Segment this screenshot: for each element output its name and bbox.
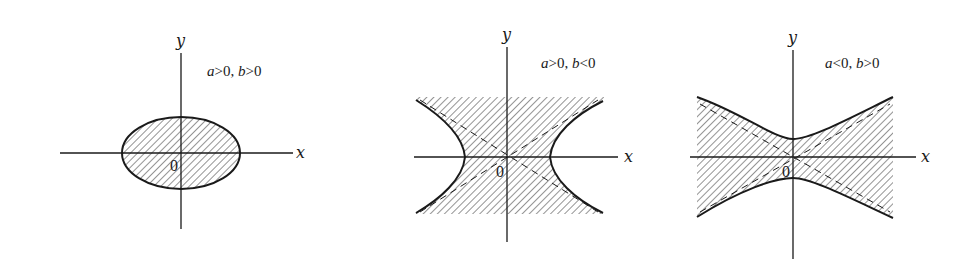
cond-b: >0 <box>863 55 879 71</box>
conic-sections-figure: x y 0 a>0, b>0 x y 0 a>0, b<0 x y <box>0 0 979 275</box>
cond-b: >0 <box>245 63 261 79</box>
origin-label: 0 <box>496 163 504 180</box>
cond-a: >0, <box>215 63 238 79</box>
var-a: a <box>541 55 549 71</box>
var-a: a <box>825 55 833 71</box>
cond-a: <0, <box>833 55 856 71</box>
y-axis-label: y <box>787 28 798 47</box>
y-axis-label: y <box>175 31 186 50</box>
condition-label: a>0, b<0 <box>541 55 595 71</box>
x-axis-label: x <box>921 147 930 166</box>
condition-label: a<0, b>0 <box>825 55 879 71</box>
x-axis-label: x <box>296 143 305 162</box>
panel-hyperbola-horizontal: x y 0 a>0, b<0 <box>414 25 633 242</box>
origin-label: 0 <box>782 163 790 180</box>
condition-label: a>0, b>0 <box>207 63 261 79</box>
origin-label: 0 <box>170 157 178 174</box>
cond-a: >0, <box>549 55 572 71</box>
x-axis-label: x <box>624 147 633 166</box>
var-a: a <box>207 63 215 79</box>
cond-b: <0 <box>579 55 595 71</box>
y-axis-label: y <box>501 25 512 44</box>
panel-hyperbola-vertical: x y 0 a<0, b>0 <box>690 28 930 259</box>
panel-ellipse: x y 0 a>0, b>0 <box>60 31 305 229</box>
